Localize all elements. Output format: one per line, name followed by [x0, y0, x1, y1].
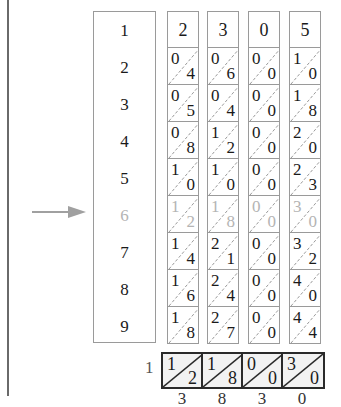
tens-digit: 1 [171, 160, 180, 180]
rod-cell: 16 [167, 270, 199, 307]
tens-digit: 0 [171, 123, 180, 143]
sum-digit: 3 [162, 389, 202, 407]
tens-digit: 1 [293, 49, 302, 69]
rod-head-digit: 0 [248, 11, 280, 48]
rod-cell: 08 [167, 122, 199, 159]
tens-digit: 4 [293, 308, 302, 328]
ones-digit: 8 [228, 368, 237, 388]
rod-cell: 27 [207, 307, 239, 344]
tens-digit: 2 [211, 234, 220, 254]
tens-digit: 1 [293, 86, 302, 106]
index-row-8: 8 [94, 271, 155, 308]
index-row-9: 9 [94, 308, 155, 345]
tens-digit: 0 [252, 197, 261, 217]
rod-cell: 20 [289, 122, 321, 159]
ones-digit: 5 [187, 101, 196, 121]
index-row-7: 7 [94, 234, 155, 271]
rod-cell: 12 [167, 196, 199, 233]
rod-cell: 00 [248, 122, 280, 159]
ones-digit: 0 [268, 249, 277, 269]
result-row: 12180030 [161, 352, 325, 389]
tens-digit: 1 [211, 197, 220, 217]
tens-digit: 0 [211, 86, 220, 106]
rod-cell: 32 [289, 233, 321, 270]
rod-cell: 24 [207, 270, 239, 307]
rod-cell: 40 [289, 270, 321, 307]
rod-cell: 00 [248, 270, 280, 307]
ones-digit: 4 [309, 323, 318, 343]
tens-digit: 2 [293, 160, 302, 180]
tens-digit: 1 [211, 160, 220, 180]
ones-digit: 6 [187, 286, 196, 306]
tens-digit: 3 [293, 197, 302, 217]
tens-digit: 0 [252, 86, 261, 106]
sum-digit: 3 [242, 389, 282, 407]
index-row-5: 5 [94, 160, 155, 197]
tens-digit: 1 [167, 354, 176, 374]
ones-digit: 4 [227, 286, 236, 306]
ones-digit: 0 [268, 286, 277, 306]
ones-digit: 2 [187, 212, 196, 232]
tens-digit: 1 [171, 308, 180, 328]
rod-cell: 10 [207, 159, 239, 196]
tens-digit: 0 [252, 123, 261, 143]
left-rule-line [7, 0, 9, 396]
tens-digit: 0 [247, 354, 256, 374]
rod-cell: 18 [289, 85, 321, 122]
tens-digit: 1 [171, 234, 180, 254]
rod-cell: 00 [248, 85, 280, 122]
index-row-2: 2 [94, 49, 155, 86]
rod-cell: 21 [207, 233, 239, 270]
rod-cell: 18 [167, 307, 199, 344]
ones-digit: 0 [268, 101, 277, 121]
ones-digit: 0 [309, 212, 318, 232]
index-row-6-selected: 6 [94, 197, 155, 234]
ones-digit: 3 [309, 175, 318, 195]
rod-cell: 00 [248, 196, 280, 233]
tens-digit: 1 [207, 354, 216, 374]
ones-digit: 0 [227, 175, 236, 195]
rod-cell: 06 [207, 48, 239, 85]
ones-digit: 2 [309, 249, 318, 269]
rod-cell: 14 [167, 233, 199, 270]
index-row-4: 4 [94, 123, 155, 160]
ones-digit: 2 [188, 368, 197, 388]
tens-digit: 0 [171, 86, 180, 106]
ones-digit: 0 [309, 64, 318, 84]
result-cell: 18 [203, 354, 243, 387]
ones-digit: 8 [309, 101, 318, 121]
tens-digit: 0 [252, 49, 261, 69]
result-cell: 00 [243, 354, 283, 387]
tens-digit: 1 [171, 271, 180, 291]
rod-cell: 00 [248, 307, 280, 344]
tens-digit: 0 [171, 49, 180, 69]
rod-cell: 04 [167, 48, 199, 85]
index-row-1: 1 [94, 12, 155, 49]
rod-head-digit: 2 [167, 11, 199, 48]
ones-digit: 4 [187, 249, 196, 269]
ones-digit: 0 [309, 286, 318, 306]
rod-head-digit: 5 [289, 11, 321, 48]
tens-digit: 2 [293, 123, 302, 143]
ones-digit: 0 [268, 138, 277, 158]
rod-cell: 30 [289, 196, 321, 233]
ones-digit: 0 [268, 212, 277, 232]
rod-4: 51018202330324044 [289, 11, 321, 344]
tens-digit: 0 [211, 49, 220, 69]
ones-digit: 6 [227, 64, 236, 84]
ones-digit: 0 [309, 138, 318, 158]
tens-digit: 0 [252, 160, 261, 180]
tens-digit: 3 [293, 234, 302, 254]
tens-digit: 0 [252, 308, 261, 328]
tens-digit: 3 [287, 354, 296, 374]
sum-digit: 8 [202, 389, 242, 407]
ones-digit: 8 [187, 323, 196, 343]
result-row-label: 1 [145, 358, 154, 378]
index-row-3: 3 [94, 86, 155, 123]
sum-digit: 0 [282, 389, 322, 407]
tens-digit: 0 [252, 234, 261, 254]
tens-digit: 4 [293, 271, 302, 291]
tens-digit: 1 [171, 197, 180, 217]
ones-digit: 0 [268, 323, 277, 343]
rod-3: 00000000000000000 [248, 11, 280, 344]
